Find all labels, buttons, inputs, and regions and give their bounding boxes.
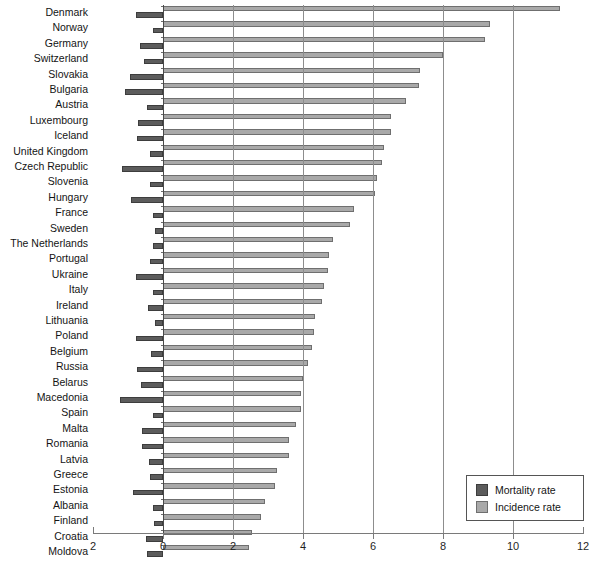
category-label: Russia xyxy=(0,359,88,374)
mortality-rate-bar xyxy=(151,351,163,357)
mortality-rate-bar xyxy=(140,43,163,49)
plot-area xyxy=(93,5,583,533)
mortality-rate-bar xyxy=(155,228,163,234)
bar-row xyxy=(93,405,583,420)
bar-row xyxy=(93,282,583,297)
bar-row xyxy=(93,267,583,282)
bar-row xyxy=(93,421,583,436)
bar-row xyxy=(93,436,583,451)
bar-row xyxy=(93,236,583,251)
category-label: Czech Republic xyxy=(0,159,88,174)
incidence-rate-bar xyxy=(163,191,375,196)
x-axis-line xyxy=(93,533,583,534)
incidence-rate-bar xyxy=(163,314,315,319)
mortality-rate-bar xyxy=(131,197,163,203)
x-axis-tick-label: 2 xyxy=(218,540,248,553)
mortality-rate-bar xyxy=(138,120,163,126)
mortality-rate-bar xyxy=(153,213,164,219)
mortality-rate-bar xyxy=(122,166,163,172)
mortality-rate-bar xyxy=(141,382,163,388)
category-label: Malta xyxy=(0,421,88,436)
bar-row xyxy=(93,97,583,112)
gridline xyxy=(513,5,514,533)
dark-gray-swatch xyxy=(476,484,488,496)
incidence-rate-bar xyxy=(163,21,490,26)
bar-row xyxy=(93,390,583,405)
light-gray-swatch xyxy=(476,501,488,513)
category-label: Estonia xyxy=(0,482,88,497)
category-label: France xyxy=(0,205,88,220)
category-axis-labels: DenmarkNorwayGermanySwitzerlandSlovakiaB… xyxy=(0,5,88,498)
incidence-rate-bar xyxy=(163,483,275,488)
category-label: Poland xyxy=(0,328,88,343)
mortality-rate-bar xyxy=(153,413,163,419)
incidence-rate-bar xyxy=(163,468,277,473)
category-label: Moldova xyxy=(0,544,88,559)
mortality-rate-bar xyxy=(137,367,163,373)
category-label: Slovenia xyxy=(0,174,88,189)
mortality-rate-bar xyxy=(153,505,164,511)
category-label: Portugal xyxy=(0,251,88,266)
category-label: Luxembourg xyxy=(0,113,88,128)
bar-row xyxy=(93,344,583,359)
legend-label-incidence-rate: Incidence rate xyxy=(495,501,561,513)
incidence-rate-bar xyxy=(163,83,419,88)
category-label: Hungary xyxy=(0,190,88,205)
gridline xyxy=(303,5,304,533)
gridline xyxy=(233,5,234,533)
legend-label-mortality-rate: Mortality rate xyxy=(495,484,556,496)
chart-legend: Mortality rate Incidence rate xyxy=(466,475,584,521)
bar-row xyxy=(93,190,583,205)
legend-item-incidence-rate: Incidence rate xyxy=(476,499,583,515)
bar-row xyxy=(93,328,583,343)
incidence-rate-bar xyxy=(163,453,289,458)
incidence-rate-bar xyxy=(163,252,329,257)
category-label: Slovakia xyxy=(0,67,88,82)
category-label: The Netherlands xyxy=(0,236,88,251)
bar-row xyxy=(93,36,583,51)
x-axis-tick-label: 10 xyxy=(498,540,528,553)
category-label: Belgium xyxy=(0,344,88,359)
gridline xyxy=(443,5,444,533)
category-label: Ireland xyxy=(0,298,88,313)
x-axis-tick-label: 2 xyxy=(78,540,108,553)
bar-row xyxy=(93,205,583,220)
mortality-rate-bar xyxy=(144,59,163,65)
category-label: Lithuania xyxy=(0,313,88,328)
mortality-rate-bar xyxy=(142,444,163,450)
incidence-rate-bar xyxy=(163,129,391,134)
x-axis-tick-label: 12 xyxy=(568,540,597,553)
incidence-rate-bar xyxy=(163,329,314,334)
category-label: Iceland xyxy=(0,128,88,143)
bar-row xyxy=(93,67,583,82)
category-label: Albania xyxy=(0,498,88,513)
incidence-rate-bar xyxy=(163,114,391,119)
bar-row xyxy=(93,298,583,313)
bar-row xyxy=(93,20,583,35)
category-label: Norway xyxy=(0,20,88,35)
incidence-rate-bar xyxy=(163,237,333,242)
incidence-rate-bar xyxy=(163,6,560,11)
x-axis-tick-label: 8 xyxy=(428,540,458,553)
mortality-rate-bar xyxy=(153,290,164,296)
bar-row xyxy=(93,113,583,128)
category-label: Macedonia xyxy=(0,390,88,405)
category-label: Bulgaria xyxy=(0,82,88,97)
mortality-rate-bar xyxy=(149,459,163,465)
category-label: Finland xyxy=(0,513,88,528)
bar-row xyxy=(93,144,583,159)
bar-rows xyxy=(93,5,583,498)
mortality-rate-bar xyxy=(133,490,163,496)
gridline xyxy=(373,5,374,533)
mortality-rate-bar xyxy=(148,305,163,311)
mortality-rate-bar xyxy=(125,89,164,95)
mortality-rate-bar xyxy=(150,474,163,480)
incidence-rate-bar xyxy=(163,206,354,211)
mortality-rate-bar xyxy=(150,182,163,188)
mortality-rate-bar xyxy=(142,428,163,434)
horizontal-bar-chart: DenmarkNorwayGermanySwitzerlandSlovakiaB… xyxy=(0,0,597,564)
mortality-rate-bar xyxy=(155,320,163,326)
incidence-rate-bar xyxy=(163,345,312,350)
category-label: Italy xyxy=(0,282,88,297)
incidence-rate-bar xyxy=(163,283,324,288)
